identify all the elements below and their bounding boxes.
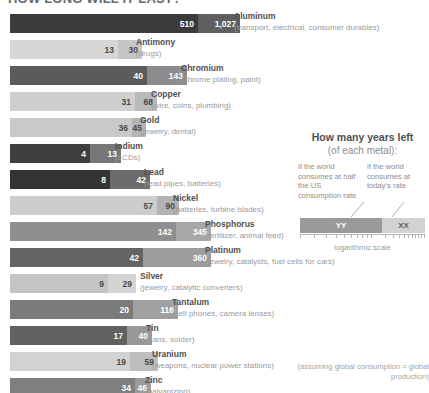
- bar-segment-half-us-rate: 40: [10, 66, 147, 85]
- axis-tick: [351, 235, 352, 238]
- legend-subtitle: (of each metal):: [296, 144, 429, 157]
- metal-bar: 5790: [10, 196, 179, 215]
- bar-segment-half-us-rate: 42: [10, 248, 143, 267]
- axis-tick: [415, 235, 416, 238]
- axis-tick: [362, 235, 363, 238]
- metal-uses: (drugs): [136, 48, 175, 59]
- metal-bar-list: 5101,027Aluminum(transport, electrical, …: [0, 12, 300, 393]
- metal-uses: (transport, electrical, consumer durable…: [234, 22, 379, 33]
- metal-name: Aluminum: [234, 11, 379, 22]
- metal-row: 1330Antimony(drugs): [0, 38, 300, 64]
- metal-uses: (jewelry, catalytic converters): [140, 282, 243, 293]
- metal-row: 3168Copper(wire, coins, plumbing): [0, 90, 300, 116]
- metal-name: Tin: [146, 323, 194, 334]
- metal-bar: 42360: [10, 248, 211, 267]
- metal-uses: (cell phones, camera lenses): [172, 308, 274, 319]
- legend-scale-label: logarithmic scale: [296, 243, 429, 252]
- axis-tick: [418, 235, 419, 238]
- bar-segment-half-us-rate: 510: [10, 14, 198, 33]
- bar-segment-half-us-rate: 17: [10, 326, 127, 345]
- legend-arrow-icon: [296, 201, 429, 218]
- bar-segment-half-us-rate: 9: [10, 274, 108, 293]
- metal-label-group: Silver(jewelry, catalytic converters): [140, 271, 243, 293]
- axis-tick: [399, 235, 400, 238]
- metal-uses: (wire, coins, plumbing): [151, 100, 231, 111]
- metal-name: Tantalum: [172, 297, 274, 308]
- bar-segment-half-us-rate: 36: [10, 118, 132, 137]
- legend-segment-half-rate: YY: [300, 218, 382, 233]
- metal-bar: 842: [10, 170, 150, 189]
- metal-label-group: Nickel(batteries, turbine blades): [173, 193, 264, 215]
- metal-label-group: Tin(cans, solder): [146, 323, 194, 345]
- metal-row: 929Silver(jewelry, catalytic converters): [0, 272, 300, 298]
- metal-label-group: Phosphorus(fertilizer, animal feed): [205, 219, 284, 241]
- metal-bar: 5101,027: [10, 14, 240, 33]
- legend-segment-today-rate: XX: [382, 218, 425, 233]
- metal-name: Gold: [140, 115, 196, 126]
- bar-segment-half-us-rate: 13: [10, 40, 118, 59]
- axis-tick: [408, 235, 409, 238]
- metal-uses: (chrome plating, paint): [181, 74, 261, 85]
- metal-name: Zinc: [145, 375, 190, 386]
- bar-segment-half-us-rate: 20: [10, 300, 133, 319]
- metal-uses: (weapons, nuclear power stations): [152, 360, 274, 371]
- metal-label-group: Copper(wire, coins, plumbing): [151, 89, 231, 111]
- bar-segment-half-us-rate: 8: [10, 170, 110, 189]
- metal-uses: (lead pipes, batteries): [144, 178, 221, 189]
- axis-tick: [424, 235, 425, 238]
- metal-row: 20116Tantalum(cell phones, camera lenses…: [0, 298, 300, 324]
- axis-tick: [421, 235, 422, 238]
- metal-uses: (fertilizer, animal feed): [205, 230, 284, 241]
- legend-columns: if the world consumes at half the US con…: [296, 162, 429, 200]
- metal-name: Nickel: [173, 193, 264, 204]
- metal-name: Copper: [151, 89, 231, 100]
- metal-bar: 413: [10, 144, 121, 163]
- chart-footnote: (assuming global consumption = global pr…: [293, 362, 429, 382]
- bar-segment-half-us-rate: 34: [10, 378, 135, 393]
- metal-bar: 1740: [10, 326, 152, 345]
- metal-name: Indium: [115, 141, 143, 152]
- legend-pointer-lines: [296, 201, 429, 218]
- metal-uses: (cans, solder): [146, 334, 194, 345]
- metal-label-group: Tantalum(cell phones, camera lenses): [172, 297, 274, 319]
- metal-bar: 142345: [10, 222, 211, 241]
- metal-bar: 1959: [10, 352, 158, 371]
- metal-row: 842Lead(lead pipes, batteries): [0, 168, 300, 194]
- metal-label-group: Zinc(galvanizing): [145, 375, 190, 393]
- metal-bar: 20116: [10, 300, 178, 319]
- metal-name: Chromium: [181, 63, 261, 74]
- metal-row: 413Indium(LCDs): [0, 142, 300, 168]
- bar-segment-half-us-rate: 31: [10, 92, 135, 111]
- axis-tick: [412, 235, 413, 238]
- axis-tick: [371, 235, 372, 238]
- metal-bar: 1330: [10, 40, 142, 59]
- metal-uses: (LCDs): [115, 152, 143, 163]
- axis-tick: [300, 235, 301, 238]
- bar-segment-half-us-rate: 19: [10, 352, 130, 371]
- metal-row: 142345Phosphorus(fertilizer, animal feed…: [0, 220, 300, 246]
- axis-tick: [357, 235, 358, 238]
- metal-name: Lead: [144, 167, 221, 178]
- metal-name: Uranium: [152, 349, 274, 360]
- metal-row: 3645Gold(jewelry, dental): [0, 116, 300, 142]
- bar-segment-half-us-rate: 4: [10, 144, 90, 163]
- axis-tick: [385, 235, 386, 238]
- metal-label-group: Indium(LCDs): [115, 141, 143, 163]
- metal-bar: 3168: [10, 92, 157, 111]
- bar-segment-todays-rate: 29: [108, 274, 136, 293]
- metal-row: 5790Nickel(batteries, turbine blades): [0, 194, 300, 220]
- metal-uses: (jewelry, catalysts, fuel cells for cars…: [205, 256, 335, 267]
- bar-segment-half-us-rate: 57: [10, 196, 157, 215]
- metal-uses: (batteries, turbine blades): [173, 204, 264, 215]
- axis-tick: [367, 235, 368, 238]
- metal-row: 40143Chromium(chrome plating, paint): [0, 64, 300, 90]
- axis-tick: [393, 235, 394, 238]
- metal-name: Phosphorus: [205, 219, 284, 230]
- metal-row: 1740Tin(cans, solder): [0, 324, 300, 350]
- metal-name: Silver: [140, 271, 243, 282]
- metal-label-group: Aluminum(transport, electrical, consumer…: [234, 11, 379, 33]
- page-title: HOW LONG WILL IT LAST?: [8, 0, 181, 6]
- axis-tick: [404, 235, 405, 238]
- metal-row: 42360Platinum(jewelry, catalysts, fuel c…: [0, 246, 300, 272]
- legend-sample-bar: YY XX: [300, 218, 425, 233]
